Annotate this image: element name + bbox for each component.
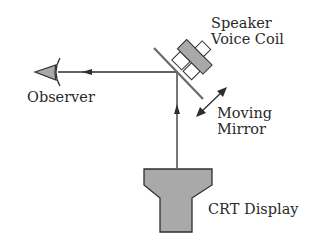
display-light-path (174, 72, 180, 168)
speaker-label-line2: Voice Coil (211, 32, 284, 47)
reflected-light-path (58, 69, 177, 75)
observer-eye-icon (35, 58, 60, 86)
observer-label: Observer (27, 90, 95, 105)
mirror-label-line1: Moving (217, 106, 272, 121)
speaker-label-line1: Speaker (211, 16, 272, 31)
mirror-label-line2: Mirror (217, 122, 266, 137)
crt-display-icon (144, 169, 212, 232)
crt-label: CRT Display (208, 202, 299, 217)
